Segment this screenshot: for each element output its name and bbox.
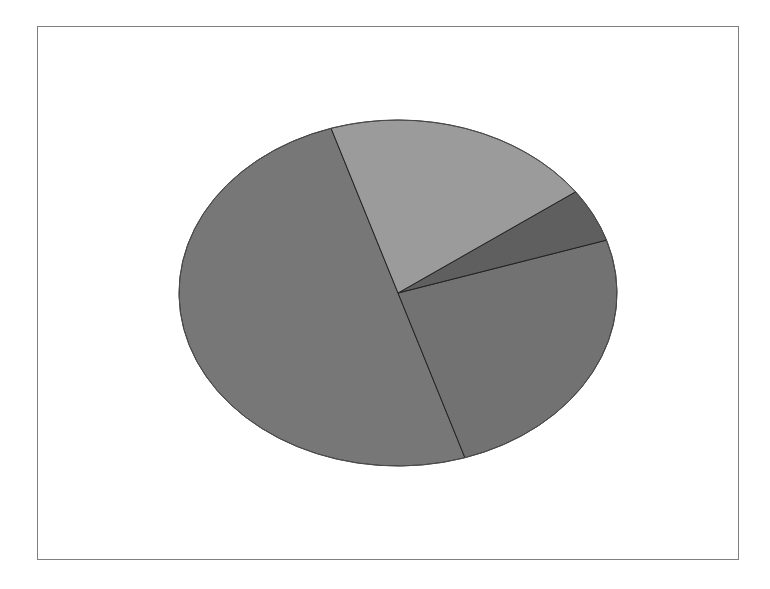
pie-chart	[0, 0, 770, 589]
